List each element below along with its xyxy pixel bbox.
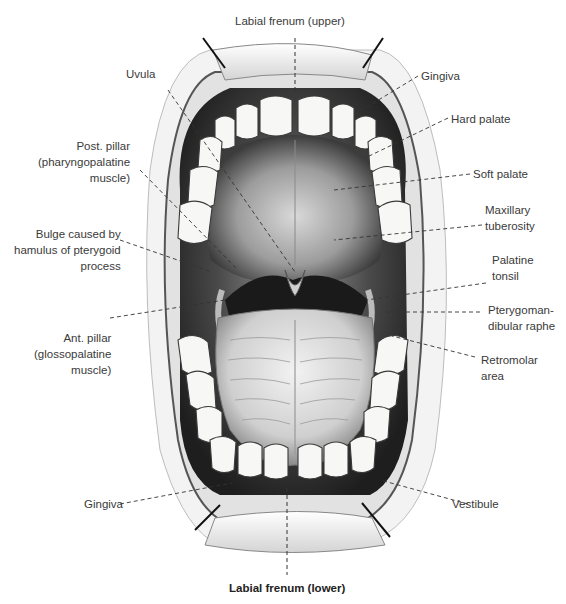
label-bulge-line-3: process xyxy=(14,258,121,274)
label-retromolar-line-1: Retromolar xyxy=(481,352,538,368)
label-ant-pillar-line-2: (glossopalatine xyxy=(34,346,111,362)
label-post-pillar-line-3: muscle) xyxy=(38,170,130,186)
label-bulge-hamulus: Bulge caused by hamulus of pterygoid pro… xyxy=(14,226,121,274)
label-pterygo-line-1: Pterygoman- xyxy=(488,302,555,318)
label-ant-pillar: Ant. pillar (glossopalatine muscle) xyxy=(34,330,111,378)
figure-caption: Labial frenum (lower) xyxy=(229,582,345,594)
label-labial-frenum-upper: Labial frenum (upper) xyxy=(235,13,345,29)
label-bulge-line-2: hamulus of pterygoid xyxy=(14,242,121,258)
label-soft-palate: Soft palate xyxy=(473,166,528,182)
label-palatine-line-1: Palatine xyxy=(492,252,534,268)
label-uvula: Uvula xyxy=(126,66,155,82)
lower-lip xyxy=(205,512,385,553)
label-vestibule: Vestibule xyxy=(452,496,499,512)
label-pterygomandibular-raphe: Pterygoman- dibular raphe xyxy=(488,302,555,334)
label-bulge-line-1: Bulge caused by xyxy=(14,226,121,242)
label-gingiva-upper: Gingiva xyxy=(421,68,460,84)
label-maxillary-line-2: tuberosity xyxy=(485,218,535,234)
oral-cavity-illustration xyxy=(0,0,566,604)
label-pterygo-line-2: dibular raphe xyxy=(488,318,555,334)
label-retromolar-area: Retromolar area xyxy=(481,352,538,384)
label-ant-pillar-line-1: Ant. pillar xyxy=(34,330,111,346)
label-palatine-tonsil: Palatine tonsil xyxy=(492,252,534,284)
label-hard-palate: Hard palate xyxy=(451,111,510,127)
label-post-pillar-line-1: Post. pillar xyxy=(38,138,130,154)
label-gingiva-lower: Gingiva xyxy=(84,496,123,512)
label-retromolar-line-2: area xyxy=(481,368,538,384)
label-ant-pillar-line-3: muscle) xyxy=(34,362,111,378)
label-maxillary-line-1: Maxillary xyxy=(485,202,535,218)
label-palatine-line-2: tonsil xyxy=(492,268,534,284)
label-post-pillar: Post. pillar (pharyngopalatine muscle) xyxy=(38,138,130,186)
label-post-pillar-line-2: (pharyngopalatine xyxy=(38,154,130,170)
label-maxillary-tuberosity: Maxillary tuberosity xyxy=(485,202,535,234)
